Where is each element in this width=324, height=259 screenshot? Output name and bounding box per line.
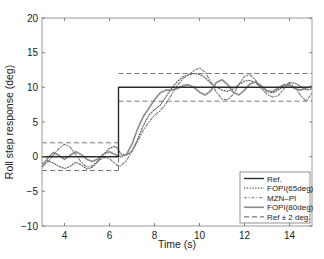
y-tick-label: 5 <box>32 117 38 128</box>
y-tick-label: −5 <box>27 186 39 197</box>
legend-label-fopi-65deg: FOPI(65deg) <box>267 184 314 193</box>
y-tick-label: 15 <box>27 47 39 58</box>
x-tick-label: 12 <box>239 230 251 241</box>
y-tick-label: 20 <box>27 13 39 24</box>
y-tick-label: 10 <box>27 82 39 93</box>
roll-step-response-chart: 468101214 −10−505101520 Time (s) Roll st… <box>0 0 324 259</box>
legend-label-fopi-80deg: FOPI(80deg) <box>267 203 314 212</box>
y-axis-label: Roll step response (deg) <box>3 65 15 179</box>
legend: Ref.FOPI(65deg)MZN–PIFOPI(80deg)Ref ± 2 … <box>240 172 314 223</box>
legend-label-mzn-pi: MZN–PI <box>267 194 296 203</box>
y-tick-label: 0 <box>32 151 38 162</box>
x-tick-label: 8 <box>152 230 158 241</box>
x-tick-label: 4 <box>62 230 68 241</box>
legend-label-ref-2-deg: Ref ± 2 deg. <box>267 213 311 222</box>
x-axis-label: Time (s) <box>158 238 196 250</box>
x-tick-label: 14 <box>284 230 296 241</box>
legend-label-ref: Ref. <box>267 175 282 184</box>
y-tick-label: −10 <box>21 221 38 232</box>
x-tick-label: 6 <box>107 230 113 241</box>
